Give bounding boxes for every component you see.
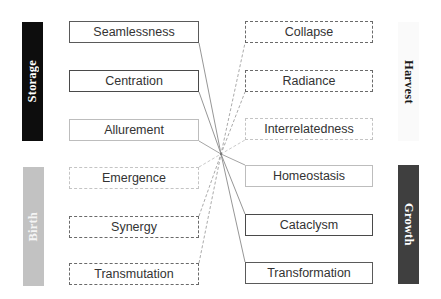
connector-lines [0,0,441,299]
box-label: Radiance [283,74,336,88]
link-centration-cataclysm [199,92,245,214]
box-label: Interrelatedness [264,122,354,136]
link-transmutation-collapse [199,43,245,263]
link-emergence-interrelatedness [199,140,245,167]
growth-label: Growth [401,203,416,246]
box-allurement: Allurement [69,119,199,141]
box-cataclysm: Cataclysm [245,214,373,236]
crossing-node [220,153,222,155]
box-label: Collapse [285,25,334,39]
link-allurement-homeostasis [199,141,245,165]
box-interrelatedness: Interrelatedness [245,118,373,140]
growth-bar: Growth [398,165,419,284]
box-label: Centration [105,74,163,88]
box-label: Synergy [111,220,157,234]
box-transmutation: Transmutation [69,263,199,285]
box-transformation: Transformation [245,262,373,284]
link-seamlessness-transformation [199,43,245,262]
box-label: Transmutation [94,267,173,281]
box-homeostasis: Homeostasis [245,165,373,187]
box-seamlessness: Seamlessness [69,21,199,43]
box-label: Homeostasis [273,169,345,183]
harvest-bar: Harvest [398,22,419,141]
harvest-label: Harvest [401,60,416,104]
box-centration: Centration [69,70,199,92]
birth-bar: Birth [23,167,44,286]
storage-bar: Storage [22,22,43,141]
box-label: Allurement [104,123,164,137]
box-label: Cataclysm [280,218,338,232]
link-synergy-radiance [199,92,245,216]
box-label: Transformation [267,266,351,280]
crossing-diagram: Storage Birth Harvest Growth Seamlessnes… [0,0,441,299]
box-synergy: Synergy [69,216,199,238]
box-radiance: Radiance [245,70,373,92]
box-emergence: Emergence [69,167,199,189]
birth-label: Birth [26,212,41,241]
box-collapse: Collapse [245,21,373,43]
storage-label: Storage [25,60,40,102]
box-label: Emergence [102,171,166,185]
box-label: Seamlessness [93,25,174,39]
